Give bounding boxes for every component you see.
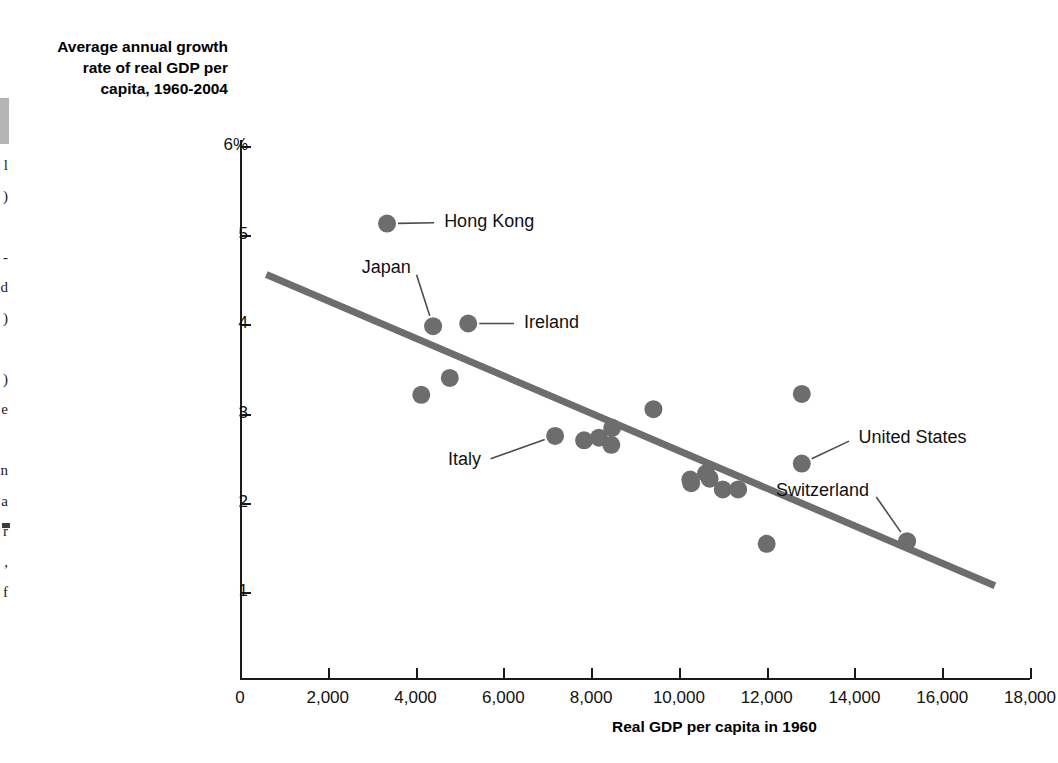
x-tick-label-18000: 18,000	[985, 688, 1058, 708]
y-tick-label-4: 4	[188, 313, 248, 333]
x-tick-12000	[767, 668, 769, 679]
chart-page: l ) - d ) ) e n a r , f Average annual g…	[0, 0, 1058, 763]
y-axis-title: Average annual growth rate of real GDP p…	[0, 36, 228, 99]
x-tick-label-6000: 6,000	[458, 688, 548, 708]
point-label-ireland: Ireland	[524, 312, 579, 333]
point-label-united-states: United States	[858, 427, 966, 448]
x-axis-title: Real GDP per capita in 1960	[612, 718, 817, 736]
margin-cutoff-text: l ) - d ) ) e n a r , f	[0, 150, 8, 608]
x-axis-line	[240, 678, 1030, 680]
x-tick-4000	[416, 668, 418, 679]
x-tick-14000	[854, 668, 856, 679]
x-tick-label-10000: 10,000	[634, 688, 724, 708]
y-tick-label-2: 2	[188, 492, 248, 512]
x-tick-label-8000: 8,000	[546, 688, 636, 708]
y-tick-label-5: 5	[188, 224, 248, 244]
y-tick-label-3: 3	[188, 403, 248, 423]
x-tick-label-4000: 4,000	[371, 688, 461, 708]
point-label-switzerland: Switzerland	[776, 480, 869, 501]
x-tick-2000	[328, 668, 330, 679]
point-label-italy: Italy	[448, 449, 481, 470]
x-tick-16000	[942, 668, 944, 679]
x-tick-label-0: 0	[195, 688, 285, 708]
plot-area: 123456% 02,0004,0006,0008,00010,00012,00…	[240, 140, 1030, 680]
point-label-hong-kong: Hong Kong	[444, 211, 534, 232]
x-tick-label-14000: 14,000	[809, 688, 899, 708]
x-tick-label-16000: 16,000	[897, 688, 987, 708]
x-tick-8000	[591, 668, 593, 679]
x-tick-label-2000: 2,000	[283, 688, 373, 708]
x-tick-10000	[679, 668, 681, 679]
x-tick-6000	[503, 668, 505, 679]
y-tick-label-6: 6%	[188, 135, 248, 155]
y-tick-label-1: 1	[188, 581, 248, 601]
margin-rule-top	[0, 98, 9, 144]
x-tick-label-12000: 12,000	[722, 688, 812, 708]
x-tick-18000	[1030, 668, 1032, 679]
point-label-japan: Japan	[362, 257, 411, 278]
